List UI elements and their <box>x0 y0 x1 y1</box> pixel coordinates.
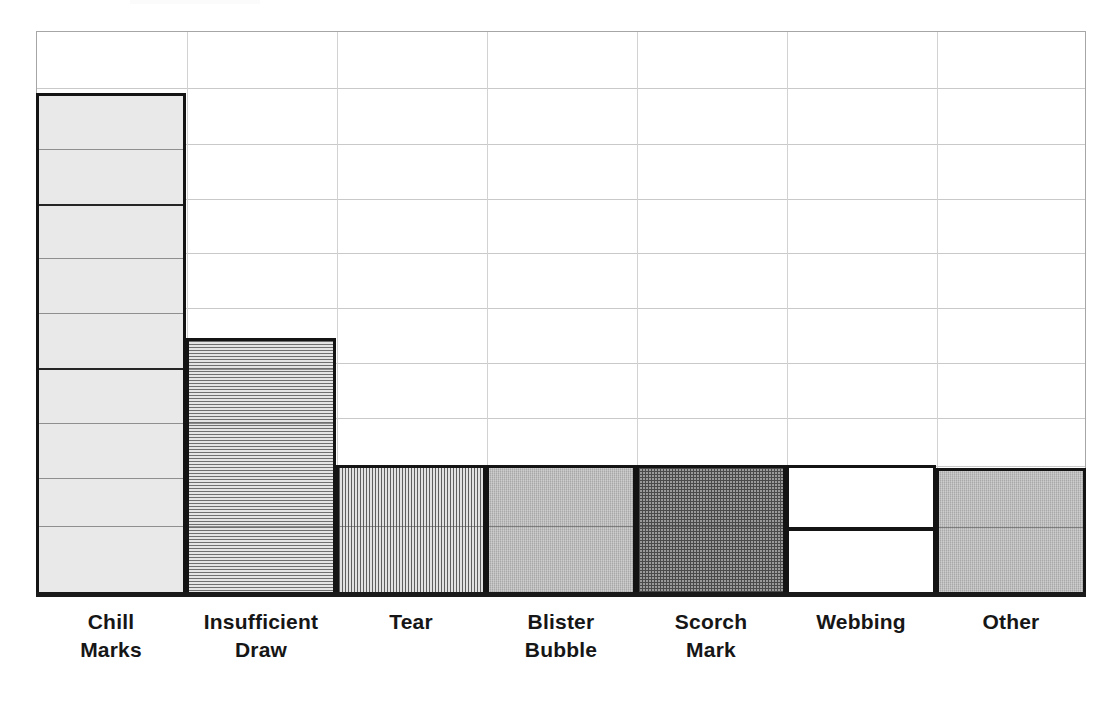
bar-insufficient-draw[interactable] <box>186 338 336 595</box>
bar-gridline <box>39 313 183 314</box>
category-label-chill-marks: Chill Marks <box>36 606 186 696</box>
bar-gridline <box>39 478 183 479</box>
gridline-horizontal <box>37 253 1085 254</box>
category-label-blister-bubble: Blister Bubble <box>486 606 636 696</box>
category-label-insufficient-draw: Insufficient Draw <box>186 606 336 696</box>
bar-gridline <box>39 149 183 150</box>
bar-gridline <box>189 526 333 527</box>
bar-gridline <box>39 368 183 370</box>
bar-gridline <box>189 369 333 370</box>
bar-chill-marks[interactable] <box>36 93 186 595</box>
bar-gridline <box>939 527 1083 528</box>
bar-gridline <box>39 204 183 206</box>
bar-scorch-mark[interactable] <box>636 465 786 595</box>
bar-webbing[interactable] <box>786 465 936 595</box>
bar-chart: Chill Marks Insufficient Draw Tear Blist… <box>0 0 1114 719</box>
category-label-other: Other <box>936 606 1086 696</box>
gridline-horizontal <box>37 88 1085 89</box>
bar-gridline <box>339 526 483 527</box>
bar-blister-bubble[interactable] <box>486 465 636 595</box>
gridline-horizontal <box>37 308 1085 309</box>
category-label-tear: Tear <box>336 606 486 696</box>
bar-gridline <box>39 526 183 527</box>
bar-gridline <box>39 258 183 259</box>
bar-other[interactable] <box>936 468 1086 596</box>
gridline-horizontal <box>37 199 1085 200</box>
bar-gridline <box>639 526 783 527</box>
x-axis-category-labels: Chill Marks Insufficient Draw Tear Blist… <box>36 606 1086 696</box>
bar-tear[interactable] <box>336 465 486 595</box>
bar-gridline <box>489 526 633 527</box>
x-axis-line <box>36 592 1086 597</box>
gridline-horizontal <box>37 144 1085 145</box>
bar-gridline <box>189 423 333 424</box>
scan-artifact <box>130 0 260 4</box>
category-label-scorch-mark: Scorch Mark <box>636 606 786 696</box>
bar-gridline <box>39 423 183 424</box>
category-label-webbing: Webbing <box>786 606 936 696</box>
bar-gridline <box>789 527 933 531</box>
